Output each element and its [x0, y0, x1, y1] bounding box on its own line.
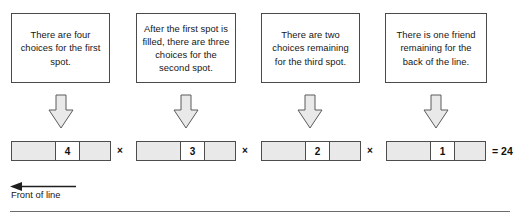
spot-bar-1: 4	[11, 141, 111, 161]
caption-box-1: There are four choices for the first spo…	[11, 13, 110, 83]
spot-bar-2-count: 3	[181, 142, 204, 160]
spot-bar-3-count: 2	[306, 142, 329, 160]
caption-text-4: There is one friend remaining for the ba…	[391, 28, 481, 68]
multiply-operator-2: ×	[242, 141, 248, 161]
diagram-canvas: There are four choices for the first spo…	[0, 0, 518, 219]
result-value: = 24	[492, 141, 513, 161]
caption-box-2: After the first spot is filled, there ar…	[136, 13, 236, 83]
spot-bar-2-right-segment	[204, 142, 235, 160]
spot-bar-2: 3	[136, 141, 236, 161]
spot-bar-4-left-segment	[387, 142, 431, 160]
spot-bar-1-left-segment	[12, 142, 56, 160]
spot-bar-3-right-segment	[329, 142, 360, 160]
bottom-divider	[10, 211, 510, 212]
spot-bar-4-right-segment	[454, 142, 485, 160]
multiply-operator-3: ×	[367, 141, 373, 161]
caption-box-3: There are two choices remaining for the …	[261, 13, 360, 83]
spot-bar-3-left-segment	[262, 142, 306, 160]
spot-bar-1-count: 4	[56, 142, 79, 160]
caption-text-1: There are four choices for the first spo…	[17, 28, 104, 68]
spot-bar-3: 2	[261, 141, 361, 161]
caption-box-4: There is one friend remaining for the ba…	[385, 13, 487, 83]
spot-bar-1-right-segment	[79, 142, 110, 160]
down-arrow-icon-1	[48, 94, 74, 130]
caption-text-2: After the first spot is filled, there ar…	[142, 22, 230, 75]
caption-text-3: There are two choices remaining for the …	[267, 28, 354, 68]
multiply-operator-1: ×	[117, 141, 123, 161]
front-of-line-arrow-icon	[10, 178, 76, 189]
spot-bar-4-count: 1	[431, 142, 454, 160]
down-arrow-icon-2	[173, 94, 199, 130]
down-arrow-icon-3	[297, 94, 323, 130]
spot-bar-2-left-segment	[137, 142, 181, 160]
down-arrow-icon-4	[423, 94, 449, 130]
spot-bar-4: 1	[386, 141, 486, 161]
front-of-line-label: Front of line	[11, 189, 61, 200]
